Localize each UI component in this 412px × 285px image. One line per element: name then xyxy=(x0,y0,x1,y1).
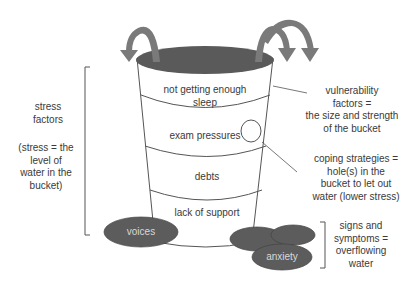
puddle-label-anxiety: anxiety xyxy=(252,251,312,262)
layer-exam-text: exam pressures xyxy=(150,130,260,143)
layer-label-support: lack of support xyxy=(152,207,262,220)
stress-def-line2: level of xyxy=(12,155,80,168)
coping-line4: water (lower stress) xyxy=(302,191,410,204)
signs-line1: signs and xyxy=(328,220,394,233)
puddle-right-top xyxy=(271,225,315,245)
stress-factors-line1: stress xyxy=(20,101,76,114)
coping-label: coping strategies = hole(s) in the bucke… xyxy=(302,153,410,203)
vulnerability-line4: of the bucket xyxy=(296,123,408,136)
vulnerability-line1: vulnerability xyxy=(296,85,408,98)
layer-sleep-line2: sleep xyxy=(150,97,260,110)
layer-debts-text: debts xyxy=(152,171,262,184)
coping-line3: bucket to let out xyxy=(302,178,410,191)
stress-def-line1: (stress = the xyxy=(12,142,80,155)
signs-label: signs and symptoms = overflowing water xyxy=(328,220,394,270)
puddle-label-voices: voices xyxy=(111,226,171,237)
stress-def-line4: bucket) xyxy=(12,180,80,193)
layer-support-text: lack of support xyxy=(152,207,262,220)
stress-def-line3: water in the xyxy=(12,167,80,180)
signs-line3: overflowing xyxy=(328,245,394,258)
layer-label-debts: debts xyxy=(152,171,262,184)
layer-label-sleep: not getting enough sleep xyxy=(150,84,260,109)
signs-bracket xyxy=(320,222,325,268)
stress-factors-label: stress factors xyxy=(20,101,76,126)
coping-line1: coping strategies = xyxy=(302,153,410,166)
layer-label-exam: exam pressures xyxy=(150,130,260,143)
stress-factors-line2: factors xyxy=(20,114,76,127)
stress-bracket xyxy=(85,67,90,235)
vulnerability-line3: the size and strength xyxy=(296,110,408,123)
vulnerability-label: vulnerability factors = the size and str… xyxy=(296,85,408,135)
signs-line4: water xyxy=(328,258,394,271)
layer-sleep-line1: not getting enough xyxy=(150,84,260,97)
vulnerability-line2: factors = xyxy=(296,98,408,111)
signs-line2: symptoms = xyxy=(328,233,394,246)
stress-definition-label: (stress = the level of water in the buck… xyxy=(12,142,80,192)
coping-line2: hole(s) in the xyxy=(302,166,410,179)
coping-pointer xyxy=(262,142,297,172)
